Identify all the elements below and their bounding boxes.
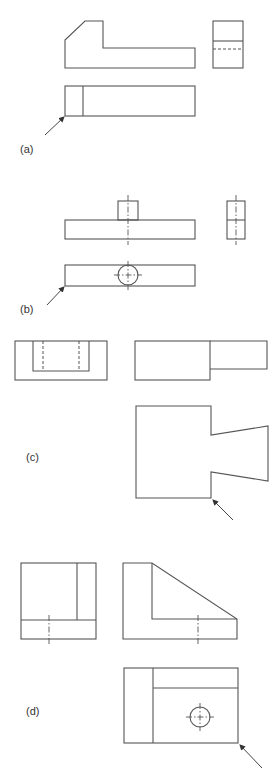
panel-b-front-view	[65, 195, 195, 245]
panel-d	[21, 563, 262, 768]
panel-a-label: (a)	[20, 143, 33, 155]
panel-c-front-view	[15, 341, 107, 380]
panel-b-arrow	[47, 287, 64, 305]
panel-d-front-view	[21, 563, 96, 645]
panel-a-top-view	[65, 86, 195, 116]
panel-a-side-view	[213, 21, 243, 68]
panel-d-top-view	[124, 668, 238, 743]
panel-c-top-view	[136, 406, 268, 498]
panel-a-front-view	[65, 21, 195, 68]
panel-b-label: (b)	[20, 303, 33, 315]
panel-d-arrow	[240, 745, 262, 768]
panel-c-label: (c)	[26, 451, 39, 463]
panel-c	[15, 341, 268, 520]
panel-b-top-view	[65, 261, 195, 291]
panel-d-side-view	[123, 563, 237, 645]
panel-d-label: (d)	[26, 705, 39, 717]
panel-b	[47, 195, 245, 305]
panel-b-side-view	[227, 195, 245, 245]
orthographic-projection-figure	[0, 0, 278, 775]
panel-c-side-view	[135, 341, 267, 380]
panel-a-arrow	[45, 117, 64, 135]
panel-a	[45, 21, 243, 135]
panel-c-arrow	[213, 500, 233, 520]
